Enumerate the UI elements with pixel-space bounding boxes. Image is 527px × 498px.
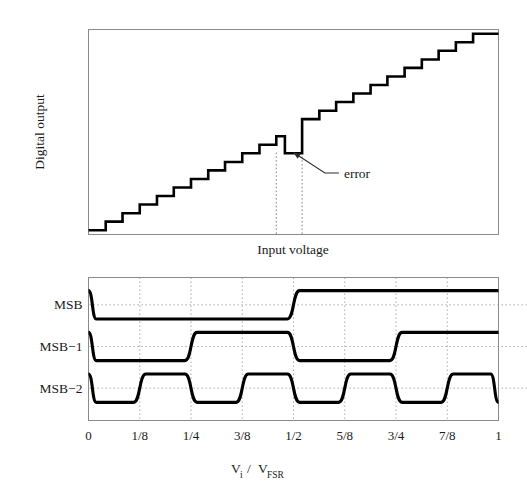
error-annotation-label: error [344, 166, 371, 181]
x-tick-label: 1/8 [131, 428, 148, 443]
x-tick-label-group: 01/81/43/81/25/83/47/81 [85, 428, 502, 443]
bottom-panel: MSBMSB−1MSB−2 01/81/43/81/25/83/47/81 V … [40, 278, 527, 481]
x-tick-label: 1/2 [285, 428, 302, 443]
top-panel: error Digital output Input voltage [32, 30, 499, 258]
adc-figure: error Digital output Input voltage MSBMS… [0, 0, 527, 498]
error-leader-line [294, 153, 339, 174]
x-tick-label: 1/4 [183, 428, 200, 443]
row-label-msb1: MSB−1 [40, 339, 83, 354]
row-label-msb2: MSB−2 [40, 381, 83, 396]
x-axis-title-input-voltage: Input voltage [257, 242, 329, 257]
x-tick-label: 1 [495, 428, 502, 443]
x-axis-title-vi-vfsr: V i / V FSR [231, 461, 285, 480]
xlabel-slash: / [247, 461, 251, 476]
figure-canvas: error Digital output Input voltage MSBMS… [0, 0, 527, 498]
y-axis-title-digital-output: Digital output [32, 94, 47, 170]
x-tick-label: 0 [85, 428, 92, 443]
x-tick-label: 5/8 [336, 428, 353, 443]
row-label-msb: MSB [54, 297, 83, 312]
x-tick-label: 3/8 [234, 428, 251, 443]
error-marker-group [276, 153, 302, 235]
row-label-group: MSBMSB−1MSB−2 [40, 297, 83, 395]
threshold-gridlines [90, 305, 527, 388]
x-tick-label: 7/8 [439, 428, 456, 443]
xlabel-sub-fsr: FSR [267, 470, 285, 480]
xlabel-sub-i: i [240, 470, 243, 480]
error-leader-path [294, 153, 339, 174]
staircase-curve [89, 34, 499, 230]
x-tick-label: 3/4 [388, 428, 405, 443]
